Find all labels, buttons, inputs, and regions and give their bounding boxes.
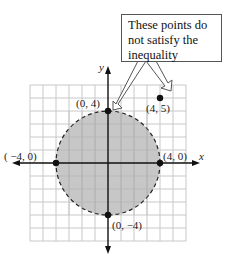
point-0-4 [105,108,111,114]
point-neg4-0 [53,160,59,166]
callout-line-3: inequality [128,48,221,63]
label-0-4: (0, 4) [76,97,100,110]
label-4-5: (4, 5) [146,102,170,115]
y-axis-label: y [98,61,104,73]
x-axis-label: x [198,150,204,162]
label-neg4-0: ( −4, 0) [4,150,37,163]
y-arrow-down-icon [105,246,111,254]
callout-line-1: These points do [128,18,221,33]
label-4-0: (4, 0) [163,150,187,163]
label-0-neg4: (0, −4) [112,219,142,232]
point-4-5 [157,95,163,101]
point-0-neg4 [105,212,111,218]
callout-line-2: not satisfy the [128,33,221,48]
callout-box: These points do not satisfy the inequali… [121,14,222,62]
y-arrow-up-icon [105,66,111,74]
